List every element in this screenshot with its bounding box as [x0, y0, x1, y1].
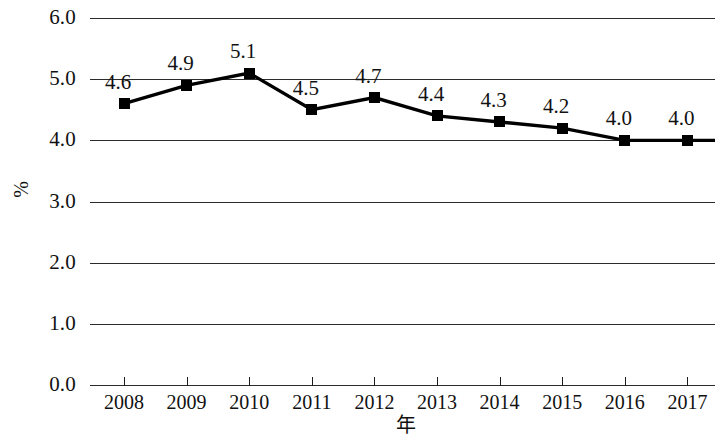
x-axis-tick-mark — [312, 377, 313, 386]
data-point-marker — [244, 68, 255, 79]
x-axis-tick-mark — [687, 377, 688, 386]
x-axis-tick-label: 2015 — [527, 391, 597, 413]
data-point-marker — [306, 104, 317, 115]
x-axis-tick-label: 2014 — [465, 391, 535, 413]
x-axis-title: 年 — [366, 414, 446, 436]
data-point-label: 4.5 — [271, 78, 341, 99]
data-point-marker — [119, 98, 130, 109]
data-point-label: 4.9 — [146, 53, 216, 74]
data-point-label: 4.2 — [521, 96, 591, 117]
data-point-marker — [181, 80, 192, 91]
x-axis-tick-mark — [124, 377, 125, 386]
data-point-label: 4.4 — [396, 84, 466, 105]
data-point-label: 4.0 — [646, 108, 716, 129]
x-axis-tick-label: 2013 — [402, 391, 472, 413]
x-axis-tick-mark — [437, 377, 438, 386]
data-point-marker — [369, 92, 380, 103]
x-axis-tick-mark — [187, 377, 188, 386]
data-point-marker — [557, 123, 568, 134]
data-point-label: 4.7 — [333, 66, 403, 87]
data-point-marker — [682, 135, 693, 146]
data-point-marker — [432, 110, 443, 121]
x-axis-tick-label: 2016 — [590, 391, 660, 413]
x-axis-tick-mark — [374, 377, 375, 386]
x-axis-tick-label: 2012 — [339, 391, 409, 413]
line-chart: % 0.01.02.03.04.05.06.0 4.64.95.14.54.74… — [0, 0, 723, 440]
x-axis-tick-mark — [562, 377, 563, 386]
data-point-label: 4.3 — [459, 90, 529, 111]
x-axis-tick-label: 2011 — [277, 391, 347, 413]
data-point-label: 4.6 — [83, 72, 153, 93]
x-axis-tick-label: 2017 — [652, 391, 722, 413]
data-point-label: 5.1 — [208, 41, 278, 62]
x-axis-tick-mark — [249, 377, 250, 386]
x-axis-tick-label: 2009 — [152, 391, 222, 413]
x-axis-tick-mark — [625, 377, 626, 386]
data-point-label: 4.0 — [584, 108, 654, 129]
x-axis-tick-label: 2008 — [89, 391, 159, 413]
data-point-marker — [619, 135, 630, 146]
x-axis-tick-label: 2010 — [214, 391, 284, 413]
x-axis-tick-mark — [500, 377, 501, 386]
data-point-marker — [494, 116, 505, 127]
